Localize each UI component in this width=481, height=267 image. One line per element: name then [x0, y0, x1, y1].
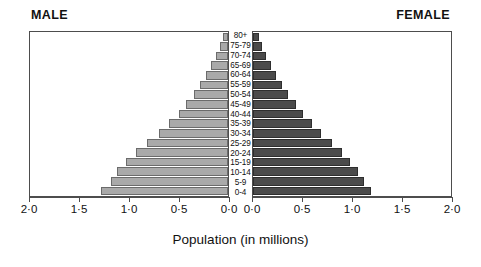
age-row: 70-74	[229, 51, 252, 61]
bar-row	[253, 157, 451, 167]
bar-row	[253, 32, 451, 42]
male-x-tick	[129, 197, 130, 202]
male-bar-25-29	[147, 139, 228, 148]
female-bar-55-59	[253, 81, 282, 90]
bar-row	[30, 119, 228, 129]
age-row: 35-39	[229, 119, 252, 129]
female-bar-60-64	[253, 71, 276, 80]
bar-row	[30, 71, 228, 81]
male-bar-45-49	[186, 100, 228, 109]
age-label-45-49: 45-49	[230, 100, 250, 109]
age-row: 65-69	[229, 60, 252, 70]
male-x-tick-label: 0·5	[171, 203, 188, 215]
bar-row	[253, 61, 451, 71]
age-label-25-29: 25-29	[230, 139, 250, 148]
male-bar-35-39	[169, 119, 228, 128]
male-bar-75-79	[220, 42, 228, 51]
female-bar-80+	[253, 33, 259, 42]
female-bar-10-14	[253, 167, 358, 176]
male-bar-55-59	[200, 81, 228, 90]
female-x-tick	[302, 197, 303, 202]
male-bar-60-64	[206, 71, 228, 80]
female-bar-65-69	[253, 61, 271, 70]
bar-row	[253, 148, 451, 158]
female-bar-20-24	[253, 148, 342, 157]
female-bar-30-34	[253, 129, 321, 138]
female-bar-45-49	[253, 100, 296, 109]
male-x-tick-label: 1·0	[121, 203, 138, 215]
bar-row	[30, 32, 228, 42]
male-panel-header: MALE	[31, 8, 68, 22]
female-x-tick-label: 0·5	[294, 203, 311, 215]
age-label-rows: 80+75-7970-7465-6960-6455-5950-5445-4940…	[229, 31, 252, 197]
male-bar-panel	[29, 31, 229, 197]
male-x-tick-label: 0·0	[221, 203, 238, 215]
female-bar-50-54	[253, 90, 288, 99]
age-row: 0-4	[229, 187, 252, 197]
female-x-tick	[452, 197, 453, 202]
male-x-tick-label: 2·0	[21, 203, 38, 215]
female-bar-rows	[253, 32, 451, 196]
female-panel-header: FEMALE	[396, 8, 450, 22]
bar-row	[30, 138, 228, 148]
male-bar-0-4	[101, 187, 228, 196]
female-bar-70-74	[253, 52, 266, 61]
bar-row	[30, 186, 228, 196]
male-bar-65-69	[211, 61, 228, 70]
female-x-tick	[402, 197, 403, 202]
population-pyramid-chart: MALE FEMALE 80+75-7970-7465-6960-6455-59…	[0, 0, 481, 267]
x-axis-title: Population (in millions)	[0, 232, 481, 247]
bar-row	[253, 177, 451, 187]
female-bar-15-19	[253, 158, 350, 167]
female-x-tick-label: 2·0	[444, 203, 461, 215]
male-bar-80+	[223, 33, 228, 42]
female-x-tick-label: 1·0	[344, 203, 361, 215]
bar-row	[30, 61, 228, 71]
age-row: 40-44	[229, 109, 252, 119]
age-label-50-54: 50-54	[230, 90, 250, 99]
male-x-axis: 2·01·51·00·50·0	[29, 197, 229, 219]
male-x-tick	[79, 197, 80, 202]
bar-row	[253, 71, 451, 81]
female-bar-40-44	[253, 110, 303, 119]
bar-row	[253, 186, 451, 196]
bar-row	[30, 80, 228, 90]
age-label-15-19: 15-19	[230, 158, 250, 167]
age-row: 30-34	[229, 129, 252, 139]
age-label-30-34: 30-34	[230, 129, 250, 138]
age-label-55-59: 55-59	[230, 80, 250, 89]
age-row: 20-24	[229, 148, 252, 158]
age-label-5-9: 5-9	[235, 178, 247, 187]
bar-row	[253, 99, 451, 109]
female-bar-25-29	[253, 139, 332, 148]
age-row: 55-59	[229, 80, 252, 90]
bar-row	[30, 157, 228, 167]
female-x-tick-label: 1·5	[394, 203, 411, 215]
age-group-axis: 80+75-7970-7465-6960-6455-5950-5445-4940…	[229, 31, 252, 197]
bar-row	[253, 51, 451, 61]
age-label-65-69: 65-69	[230, 61, 250, 70]
age-label-35-39: 35-39	[230, 119, 250, 128]
male-bar-10-14	[117, 167, 228, 176]
age-row: 75-79	[229, 41, 252, 51]
male-bar-rows	[30, 32, 228, 196]
panel-headers: MALE FEMALE	[29, 8, 452, 26]
male-bar-5-9	[111, 177, 228, 186]
male-bar-50-54	[194, 90, 228, 99]
male-bar-15-19	[126, 158, 228, 167]
age-row: 60-64	[229, 70, 252, 80]
bar-row	[253, 90, 451, 100]
age-label-10-14: 10-14	[230, 168, 250, 177]
age-label-75-79: 75-79	[230, 41, 250, 50]
age-label-80+: 80+	[234, 31, 248, 40]
bar-row	[30, 42, 228, 52]
male-x-tick	[179, 197, 180, 202]
bar-row	[253, 138, 451, 148]
female-bar-5-9	[253, 177, 364, 186]
female-x-axis: 0·00·51·01·52·0	[252, 197, 452, 219]
female-bar-35-39	[253, 119, 312, 128]
female-x-tick	[352, 197, 353, 202]
male-bar-40-44	[179, 110, 229, 119]
bar-row	[30, 148, 228, 158]
age-row: 15-19	[229, 158, 252, 168]
